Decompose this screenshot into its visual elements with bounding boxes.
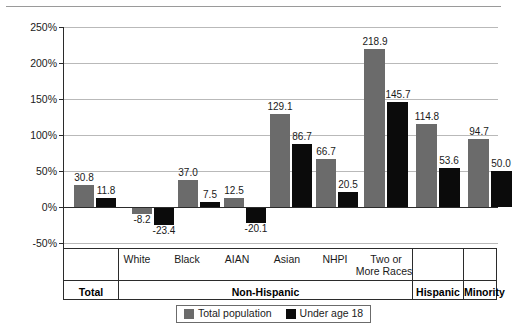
bar-total-population-two-or-more-races[interactable] xyxy=(364,49,385,207)
legend-item-total-population[interactable]: Total population xyxy=(184,308,272,319)
x-category-aian: AIAN xyxy=(213,253,261,265)
bar-under-18-aian[interactable] xyxy=(246,208,266,223)
x-category-two-or-more-races-line2: More Races xyxy=(353,265,415,277)
bar-label-under-18-minority: 50.0 xyxy=(483,159,516,169)
legend-label-under-age-18: Under age 18 xyxy=(300,308,364,319)
x-category-black: Black xyxy=(163,253,211,265)
legend-swatch-under-age-18 xyxy=(286,309,296,319)
bar-under-18-minority[interactable] xyxy=(491,171,512,207)
top-divider-rule xyxy=(6,6,501,7)
bar-label-total-population-asian: 129.1 xyxy=(260,102,300,112)
axis-band-mid-line xyxy=(63,280,497,281)
bar-label-total-population-nhpi: 66.7 xyxy=(308,147,344,157)
x-category-nhpi: NHPI xyxy=(311,253,359,265)
y-axis-labels: 250% 200% 150% 100% 50% 0% -50% xyxy=(0,27,57,248)
bar-total-population-asian[interactable] xyxy=(270,114,290,207)
legend-item-under-age-18[interactable]: Under age 18 xyxy=(286,308,364,319)
legend-label-total-population: Total population xyxy=(198,308,272,319)
y-tick-250: 250% xyxy=(30,22,57,33)
x-group-hispanic: Hispanic xyxy=(413,286,463,298)
bar-total-population-aian[interactable] xyxy=(224,198,244,207)
y-tick-200: 200% xyxy=(30,58,57,69)
axis-band-bottom-line xyxy=(63,299,497,300)
x-category-two-or-more-races-line1: Two or xyxy=(357,253,415,265)
bar-label-under-18-total: 11.8 xyxy=(88,186,124,196)
bar-label-under-18-two-or-more-races: 145.7 xyxy=(378,90,418,100)
x-axis-label-band: White Black AIAN Asian NHPI Two or More … xyxy=(63,248,497,300)
bar-under-18-black[interactable] xyxy=(200,202,220,207)
y-tick-150: 150% xyxy=(30,94,57,105)
bar-under-18-white[interactable] xyxy=(154,208,174,225)
bar-label-under-18-aian: -20.1 xyxy=(236,224,276,234)
bar-under-18-nhpi[interactable] xyxy=(338,192,358,207)
bar-label-total-population-total: 30.8 xyxy=(66,173,102,183)
axis-band-top-line xyxy=(63,248,497,249)
bar-label-total-population-two-or-more-races: 218.9 xyxy=(355,37,395,47)
bar-under-18-hispanic[interactable] xyxy=(439,168,460,207)
x-group-minority: Minority xyxy=(464,286,497,298)
x-category-asian: Asian xyxy=(263,253,311,265)
bar-total-population-minority[interactable] xyxy=(468,139,489,207)
bar-under-18-total[interactable] xyxy=(96,198,116,207)
y-tick-50: 50% xyxy=(36,166,57,177)
y-tick-m50: -50% xyxy=(32,238,57,249)
bar-label-total-population-aian: 12.5 xyxy=(216,186,252,196)
bar-label-under-18-hispanic: 53.6 xyxy=(431,156,467,166)
bar-label-under-18-asian: 86.7 xyxy=(284,132,320,142)
bar-label-under-18-nhpi: 20.5 xyxy=(330,180,366,190)
chart-legend: Total population Under age 18 xyxy=(176,305,371,323)
plot-area: 30.8 11.8 -8.2 -23.4 37.0 7.5 12.5 -20.1 xyxy=(63,27,497,248)
y-tick-0: 0% xyxy=(42,202,57,213)
x-category-white: White xyxy=(113,253,161,265)
x-group-non-hispanic: Non-Hispanic xyxy=(119,286,412,298)
bars-layer: 30.8 11.8 -8.2 -23.4 37.0 7.5 12.5 -20.1 xyxy=(64,27,498,248)
bar-label-total-population-hispanic: 114.8 xyxy=(407,112,447,122)
legend-swatch-total-population xyxy=(184,309,194,319)
bar-label-total-population-black: 37.0 xyxy=(170,168,206,178)
y-tick-100: 100% xyxy=(30,130,57,141)
bar-label-under-18-white: -23.4 xyxy=(144,226,184,236)
x-group-total: Total xyxy=(63,286,119,298)
bar-label-total-population-minority: 94.7 xyxy=(459,127,499,137)
bar-under-18-two-or-more-races[interactable] xyxy=(387,102,408,207)
